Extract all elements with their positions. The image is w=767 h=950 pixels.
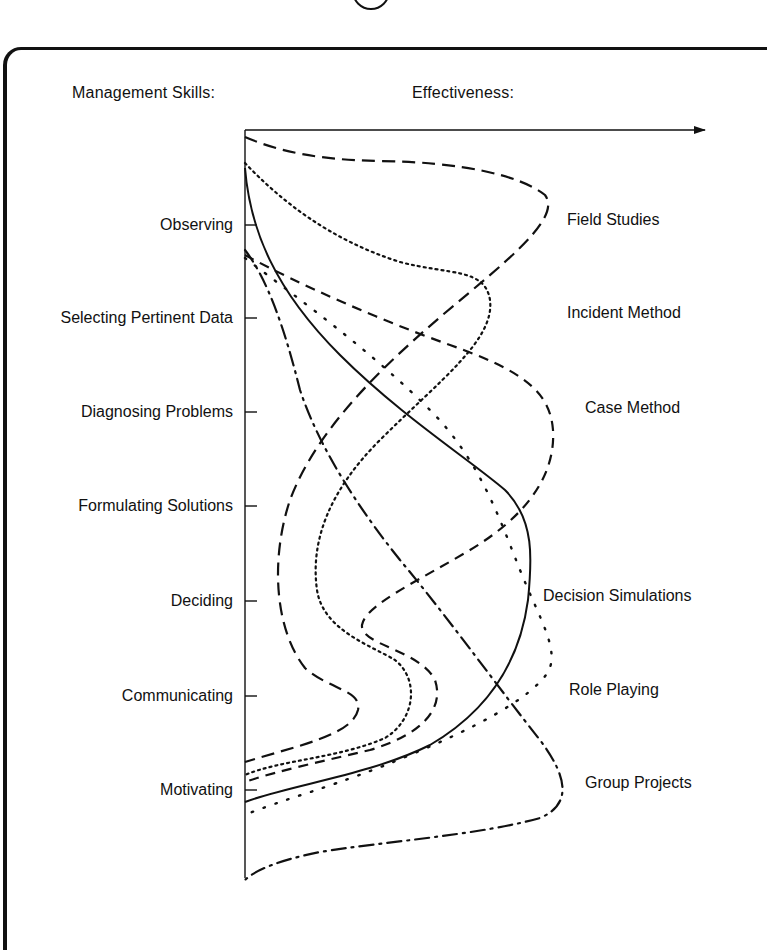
- curve-case-method: [245, 255, 553, 782]
- axes: [245, 130, 705, 878]
- curve-role-playing: [245, 258, 552, 815]
- curve-field-studies: [245, 137, 548, 762]
- curve-decision-simulations: [245, 168, 530, 802]
- curve-incident-method: [245, 163, 490, 775]
- curve-group-projects: [245, 250, 563, 880]
- axis-ticks: [245, 225, 257, 790]
